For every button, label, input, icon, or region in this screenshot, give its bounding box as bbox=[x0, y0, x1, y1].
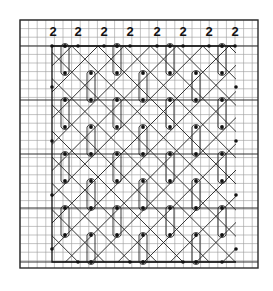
lace-pricking-diagram: 22222222 bbox=[0, 0, 273, 291]
pin-dot bbox=[181, 260, 185, 264]
circled-pin bbox=[194, 206, 198, 210]
circled-pin bbox=[89, 206, 93, 210]
circled-pin bbox=[168, 125, 172, 129]
circled-pin bbox=[89, 125, 93, 129]
circled-pin bbox=[63, 44, 67, 48]
pin-dot bbox=[76, 44, 80, 48]
pin-dot bbox=[50, 247, 54, 251]
circled-pin bbox=[141, 233, 145, 237]
circled-pin bbox=[141, 71, 145, 75]
pin-dot bbox=[233, 44, 237, 48]
circled-pin bbox=[115, 179, 119, 183]
circled-pin bbox=[194, 152, 198, 156]
circled-pin bbox=[220, 44, 224, 48]
pin-dot bbox=[128, 44, 132, 48]
circled-pin bbox=[63, 206, 67, 210]
pin-dot bbox=[50, 85, 54, 89]
circled-pin bbox=[220, 98, 224, 102]
circled-pin bbox=[141, 206, 145, 210]
circled-pin bbox=[89, 98, 93, 102]
circled-pin bbox=[168, 233, 172, 237]
circled-pin bbox=[115, 206, 119, 210]
pin-dot bbox=[155, 44, 159, 48]
pair-count-label: 2 bbox=[205, 24, 212, 39]
pair-count-label: 2 bbox=[74, 24, 81, 39]
pair-count-label: 2 bbox=[153, 24, 160, 39]
pin-dot bbox=[220, 260, 224, 264]
pin-dot bbox=[234, 85, 238, 89]
circled-pin bbox=[115, 71, 119, 75]
circled-pin bbox=[220, 179, 224, 183]
circled-pin bbox=[194, 260, 198, 264]
pair-count-label: 2 bbox=[179, 24, 186, 39]
circled-pin bbox=[194, 125, 198, 129]
circled-pin bbox=[220, 233, 224, 237]
circled-pin bbox=[63, 125, 67, 129]
pair-count-label: 2 bbox=[49, 24, 56, 39]
circled-pin bbox=[89, 260, 93, 264]
pair-count-label: 2 bbox=[100, 24, 107, 39]
circled-pin bbox=[115, 233, 119, 237]
circled-pin bbox=[194, 98, 198, 102]
circled-pin bbox=[89, 71, 93, 75]
circled-pin bbox=[89, 152, 93, 156]
circled-pin bbox=[115, 152, 119, 156]
circled-pin bbox=[168, 98, 172, 102]
pair-count-label: 2 bbox=[231, 24, 238, 39]
circled-pin bbox=[220, 206, 224, 210]
circled-pin bbox=[63, 179, 67, 183]
circled-pin bbox=[141, 179, 145, 183]
circled-pin bbox=[141, 98, 145, 102]
circled-pin bbox=[115, 125, 119, 129]
pin-dot bbox=[234, 193, 238, 197]
circled-pin bbox=[194, 179, 198, 183]
circled-pin bbox=[168, 152, 172, 156]
column-labels: 22222222 bbox=[49, 24, 238, 39]
pin-dot bbox=[207, 44, 211, 48]
circled-pin bbox=[89, 179, 93, 183]
circled-pin bbox=[168, 71, 172, 75]
circled-pin bbox=[63, 71, 67, 75]
circled-pin bbox=[63, 233, 67, 237]
thread-diagonal bbox=[0, 46, 19, 262]
circled-pin bbox=[168, 179, 172, 183]
pin-dot bbox=[128, 260, 132, 264]
pin-dot bbox=[234, 247, 238, 251]
circled-pin bbox=[194, 71, 198, 75]
pin-dot bbox=[50, 44, 54, 48]
circled-pin bbox=[63, 152, 67, 156]
circled-pin bbox=[141, 152, 145, 156]
pin-dot bbox=[234, 139, 238, 143]
pair-count-label: 2 bbox=[126, 24, 133, 39]
circled-pin bbox=[115, 44, 119, 48]
circled-pin bbox=[194, 233, 198, 237]
pin-dot bbox=[50, 193, 54, 197]
circled-pin bbox=[141, 260, 145, 264]
circled-pin bbox=[168, 206, 172, 210]
circled-pin bbox=[168, 44, 172, 48]
pin-dot bbox=[102, 44, 106, 48]
circled-pin bbox=[115, 98, 119, 102]
pin-dot bbox=[50, 139, 54, 143]
pin-dot bbox=[76, 260, 80, 264]
pin-dot bbox=[181, 44, 185, 48]
circled-pin bbox=[220, 71, 224, 75]
circled-pin bbox=[89, 233, 93, 237]
circled-pin bbox=[63, 98, 67, 102]
circled-pin bbox=[141, 125, 145, 129]
circled-pin bbox=[220, 152, 224, 156]
circled-pin bbox=[220, 125, 224, 129]
